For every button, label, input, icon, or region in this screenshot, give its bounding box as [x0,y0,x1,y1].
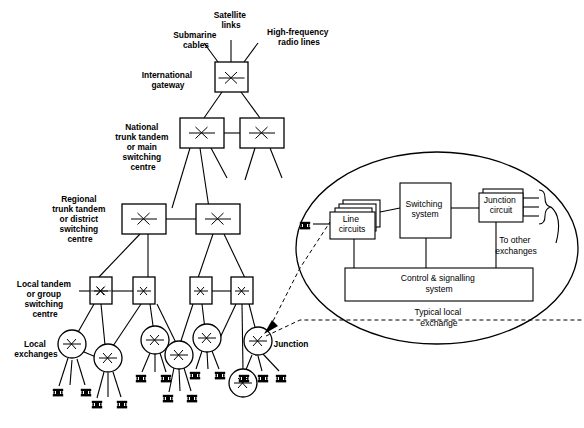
inset-caption-label: Typical local exchange [414,307,463,328]
junction-label: Junction [274,339,309,349]
telephone-icon [163,395,173,403]
inset-junction-brace [539,190,551,224]
node-local-tandem-c[interactable] [190,277,212,304]
network-hierarchy-diagram: Submarine cables Satellite links High-fr… [0,0,584,428]
telephone-icon [53,389,63,397]
external-links-group [204,40,258,62]
tandem-d-to-exchange-6-line [242,304,243,370]
exchange-5-drop-3 [212,351,219,369]
node-local-exchange-6[interactable] [229,369,257,397]
telephone-icon [276,375,286,383]
national-trunk-tandem-label: National trunk tandem or main switching … [115,122,170,172]
inset-line-circuits-to-switching [380,208,400,212]
satellite-links-label: Satellite links [214,10,248,30]
gateway-to-national-right-line [241,92,260,118]
submarine-cables-label: Submarine cables [173,30,219,50]
telephone-icon [215,372,225,380]
node-local-exchange-2[interactable] [94,344,122,372]
exchange-4-drop-3 [184,368,191,391]
hf-radio-link-line [244,43,258,62]
diagram-page: Submarine cables Satellite links High-fr… [0,0,584,428]
node-local-exchange-5[interactable] [193,324,221,352]
inset-to-other-exchanges-label: To other exchanges [495,235,537,256]
telephone-icon [117,401,127,409]
inset-to-other-exchanges-curve [551,207,559,243]
tandem-b-to-exchange-2-line [113,304,141,346]
node-local-exchange-4[interactable] [165,341,193,369]
local-tandem-label: Local tandem or group switching centre [17,279,73,319]
node-local-exchange-3[interactable] [141,326,169,354]
telephone-icon [239,375,249,383]
inset-callout-arrowhead [264,320,278,334]
telephone-icon [187,395,197,403]
regional-right-to-tandem-c-line [198,234,213,278]
national-left-to-regional-left-line [172,148,190,208]
node-local-exchange-1[interactable] [58,330,86,358]
national-right-spur-right-line [270,148,282,178]
local-exchanges-label: Local exchanges [14,339,58,359]
regional-left-to-tandem-a-line [98,234,140,278]
node-national-trunk-left[interactable] [180,118,224,148]
exchange-5-drop-2 [207,352,208,369]
national-right-spur-left-line [245,148,255,180]
telephone-icon [161,375,171,383]
telephone-icon [258,375,268,383]
regional-trunk-tandem-label: Regional trunk tandem or district switch… [52,194,107,244]
node-regional-trunk-right[interactable] [196,204,240,234]
node-local-tandem-b[interactable] [133,277,155,304]
tandem-d-to-exchange-5-line [219,304,236,340]
hf-radio-lines-label: High-frequency radio lines [267,27,331,47]
international-gateway-label: International gateway [142,70,195,90]
inset-callout-upper-dash [270,222,330,327]
exchange-3-drop-1 [142,353,150,372]
exchange-1-drop-3 [77,359,85,385]
national-left-to-regional-right-line [200,148,209,208]
inset-line-circuits[interactable]: Line circuits [330,200,380,239]
exchange-7-drop-2 [258,356,262,371]
node-regional-trunk-left[interactable] [122,204,166,234]
node-local-tandem-d[interactable] [231,277,253,304]
telephone-icon [190,372,200,380]
regional-right-to-tandem-d-line [224,234,245,278]
node-local-tandem-a[interactable] [90,277,112,304]
exchange-2-drop-1 [97,372,104,398]
node-national-trunk-right[interactable] [240,118,284,148]
exchange-7-drop-3 [263,354,279,371]
exchange-1-drop-1 [59,358,68,386]
exchange-5-drop-1 [196,351,202,369]
gateway-to-national-left-line [204,92,222,118]
telephone-icon [136,375,146,383]
inset-junction-circuit[interactable]: Junction circuit [479,189,523,222]
inset-subscriber-telephone-icon [300,222,310,230]
inset-switching-system[interactable]: Switching system [400,183,451,238]
telephone-icon [81,389,91,397]
exchange-1-drop-2 [70,360,72,385]
tandem-a-to-exchange-2-line [101,304,105,345]
inset-control-signalling-system[interactable]: Control & signalling system [345,268,533,301]
telephone-icon [92,401,102,409]
national-left-spur-line [211,148,227,178]
node-international-gateway[interactable] [215,62,248,92]
exchange-4-drop-2 [179,369,180,391]
exchange-2-drop-3 [113,372,121,397]
